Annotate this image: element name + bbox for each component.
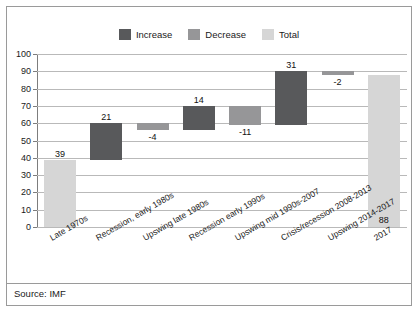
chart-legend: Increase Decrease Total xyxy=(7,29,411,40)
bar-decrease[interactable] xyxy=(322,71,354,74)
y-tick-mark xyxy=(33,89,37,90)
chart-figure: Increase Decrease Total 0102030405060708… xyxy=(6,6,412,306)
y-tick-label: 80 xyxy=(21,84,31,93)
bar-total[interactable] xyxy=(44,160,76,227)
y-tick-mark xyxy=(33,54,37,55)
y-tick-label: 90 xyxy=(21,67,31,76)
legend-label-total: Total xyxy=(279,29,299,40)
legend-item-decrease[interactable]: Decrease xyxy=(188,29,246,40)
bar-value-label: 21 xyxy=(83,112,129,122)
bar-value-label: -4 xyxy=(130,132,176,142)
bar-value-label: 39 xyxy=(37,149,83,159)
gridline xyxy=(37,54,407,55)
y-tick-mark xyxy=(33,175,37,176)
bar-increase[interactable] xyxy=(275,71,307,125)
y-tick-label: 50 xyxy=(21,136,31,145)
y-tick-mark xyxy=(33,71,37,72)
y-tick-label: 10 xyxy=(21,205,31,214)
gridline xyxy=(37,210,407,211)
y-tick-label: 70 xyxy=(21,101,31,110)
legend-item-total[interactable]: Total xyxy=(262,29,299,40)
gridline xyxy=(37,106,407,107)
legend-swatch-decrease xyxy=(188,29,200,40)
y-tick-label: 40 xyxy=(21,153,31,162)
x-axis-label: 2017 xyxy=(372,225,393,243)
bar-value-label: 31 xyxy=(268,60,314,70)
bar-decrease[interactable] xyxy=(137,123,169,130)
y-tick-mark xyxy=(33,192,37,193)
y-tick-mark xyxy=(33,141,37,142)
legend-swatch-increase xyxy=(119,29,131,40)
bar-increase[interactable] xyxy=(90,123,122,159)
y-tick-mark xyxy=(33,123,37,124)
y-tick-label: 60 xyxy=(21,119,31,128)
gridline xyxy=(37,175,407,176)
legend-item-increase[interactable]: Increase xyxy=(119,29,172,40)
y-tick-label: 0 xyxy=(26,223,31,232)
bar-decrease[interactable] xyxy=(229,106,261,125)
y-tick-label: 30 xyxy=(21,171,31,180)
y-tick-mark xyxy=(33,106,37,107)
bar-value-label: 14 xyxy=(176,95,222,105)
y-tick-mark xyxy=(33,210,37,211)
legend-label-decrease: Decrease xyxy=(205,29,246,40)
legend-label-increase: Increase xyxy=(136,29,172,40)
bar-value-label: -11 xyxy=(222,127,268,137)
source-note: Source: IMF xyxy=(14,288,66,300)
source-divider xyxy=(7,283,411,284)
y-tick-label: 100 xyxy=(16,50,31,59)
y-tick-label: 20 xyxy=(21,188,31,197)
bar-increase[interactable] xyxy=(183,106,215,130)
legend-swatch-total xyxy=(262,29,274,40)
gridline xyxy=(37,89,407,90)
bar-value-label: -2 xyxy=(315,77,361,87)
